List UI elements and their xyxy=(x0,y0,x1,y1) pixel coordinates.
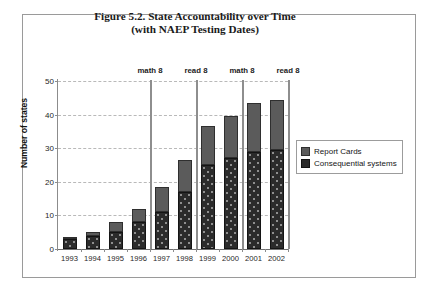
bar-group xyxy=(63,81,77,249)
y-axis-tick-label: 40 xyxy=(32,110,54,119)
y-axis-tick-label: 0 xyxy=(32,245,54,254)
naep-marker-label: read 8 xyxy=(263,66,313,75)
bar-segment-consequential-systems xyxy=(86,236,100,249)
bar-segment-consequential-systems xyxy=(109,232,123,249)
bar-segment-consequential-systems xyxy=(63,239,77,249)
bar-segment-report-cards xyxy=(247,103,261,152)
bar-segment-consequential-systems xyxy=(224,158,238,249)
legend-item-label: Report Cards xyxy=(314,147,362,156)
chart-title: Figure 5.2. State Accountability over Ti… xyxy=(40,10,350,36)
bar-group xyxy=(155,81,169,249)
bar-group xyxy=(178,81,192,249)
x-axis-tick-mark xyxy=(288,249,289,252)
bar-segment-report-cards xyxy=(201,126,215,165)
legend-item: Report Cards xyxy=(301,145,397,157)
x-axis-tick-mark xyxy=(127,249,128,252)
bar-segment-consequential-systems xyxy=(132,222,146,249)
x-axis-tick-mark xyxy=(104,249,105,252)
bar-segment-report-cards xyxy=(63,237,77,239)
naep-marker-line xyxy=(242,80,244,249)
bar-group xyxy=(109,81,123,249)
chart-title-line-2: (with NAEP Testing Dates) xyxy=(40,23,350,36)
bar-group xyxy=(132,81,146,249)
y-axis-tick-label: 30 xyxy=(32,144,54,153)
bar-segment-report-cards xyxy=(270,100,284,150)
y-axis-tick-label: 10 xyxy=(32,211,54,220)
bar-group xyxy=(224,81,238,249)
bar-segment-report-cards xyxy=(86,232,100,235)
bar-segment-report-cards xyxy=(224,116,238,158)
bar-group xyxy=(270,81,284,249)
x-axis-tick-mark xyxy=(81,249,82,252)
legend-item-label: Consequential systems xyxy=(314,159,397,168)
legend-swatch-icon xyxy=(301,147,310,156)
chart-title-line-1: Figure 5.2. State Accountability over Ti… xyxy=(94,10,295,22)
plot-area xyxy=(58,81,288,249)
bar-segment-consequential-systems xyxy=(201,165,215,249)
y-axis-tick-label: 20 xyxy=(32,177,54,186)
y-axis-tick-label: 50 xyxy=(32,77,54,86)
x-axis-tick-mark xyxy=(173,249,174,252)
legend-swatch-icon xyxy=(301,159,310,168)
bar-segment-report-cards xyxy=(109,222,123,232)
bar-segment-consequential-systems xyxy=(247,152,261,249)
y-axis-tick-labels: 01020304050 xyxy=(28,81,54,249)
x-axis-tick-mark xyxy=(219,249,220,252)
bar-segment-consequential-systems xyxy=(178,192,192,249)
x-axis-tick-mark xyxy=(242,249,243,252)
legend-item: Consequential systems xyxy=(301,157,397,169)
chart-legend: Report CardsConsequential systems xyxy=(296,140,403,174)
x-axis-tick-mark xyxy=(196,249,197,252)
bar-segment-report-cards xyxy=(178,160,192,192)
naep-marker-label: math 8 xyxy=(217,66,267,75)
naep-marker-line xyxy=(150,80,152,249)
bar-segment-consequential-systems xyxy=(155,212,169,249)
bar-group xyxy=(201,81,215,249)
bar-group xyxy=(247,81,261,249)
naep-marker-label: math 8 xyxy=(125,66,175,75)
naep-marker-line xyxy=(196,80,198,249)
naep-marker-line xyxy=(288,80,290,249)
bar-segment-consequential-systems xyxy=(270,150,284,249)
x-axis-tick-label: 2002 xyxy=(262,254,292,263)
y-axis-tick-mark xyxy=(55,249,58,250)
naep-marker-label: read 8 xyxy=(171,66,221,75)
bar-group xyxy=(86,81,100,249)
x-axis-tick-mark xyxy=(265,249,266,252)
bar-segment-report-cards xyxy=(155,187,169,212)
bar-segment-report-cards xyxy=(132,209,146,222)
x-axis-tick-mark xyxy=(150,249,151,252)
